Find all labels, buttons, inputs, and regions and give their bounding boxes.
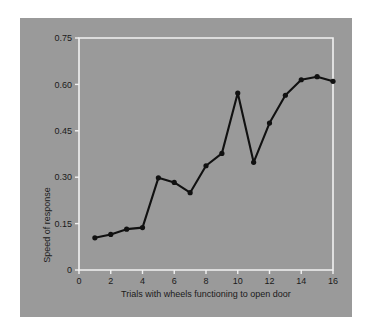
x-tick-label: 14	[296, 276, 306, 286]
y-tick-label: 0.75	[54, 33, 72, 43]
line-chart: 00.150.300.450.600.75 0246810121416 Tria…	[0, 0, 366, 331]
data-point	[203, 163, 208, 168]
x-tick-label: 10	[233, 276, 243, 286]
data-point	[251, 160, 256, 165]
x-tick-label: 12	[264, 276, 274, 286]
data-point	[140, 225, 145, 230]
x-tick-label: 2	[108, 276, 113, 286]
data-point	[235, 90, 240, 95]
data-point	[108, 232, 113, 237]
x-axis-title: Trials with wheels functioning to open d…	[121, 289, 291, 299]
data-point	[92, 235, 97, 240]
x-tick-label: 8	[203, 276, 208, 286]
data-point	[219, 151, 224, 156]
data-point	[188, 190, 193, 195]
x-tick-label: 4	[140, 276, 145, 286]
series-data-points	[92, 74, 335, 240]
data-point	[124, 227, 129, 232]
series-line-speed-of-response	[95, 77, 333, 238]
y-axis-title: Speed of response	[42, 187, 52, 263]
axis-frame	[79, 38, 333, 270]
y-tick-label: 0.15	[54, 219, 72, 229]
data-point	[267, 120, 272, 125]
y-tick-label: 0.60	[54, 80, 72, 90]
y-tick-label: 0.30	[54, 172, 72, 182]
data-point	[299, 77, 304, 82]
data-point	[156, 175, 161, 180]
figure-canvas: 00.150.300.450.600.75 0246810121416 Tria…	[0, 0, 366, 331]
y-tick-label: 0	[67, 265, 72, 275]
data-point	[315, 74, 320, 79]
data-point	[283, 93, 288, 98]
x-tick-label: 0	[76, 276, 81, 286]
y-tick-label: 0.45	[54, 126, 72, 136]
x-axis-tick-labels: 0246810121416	[76, 276, 338, 286]
y-axis-tick-labels: 00.150.300.450.600.75	[54, 33, 72, 275]
data-point	[172, 180, 177, 185]
x-tick-label: 16	[328, 276, 338, 286]
data-point	[330, 79, 335, 84]
x-tick-label: 6	[172, 276, 177, 286]
